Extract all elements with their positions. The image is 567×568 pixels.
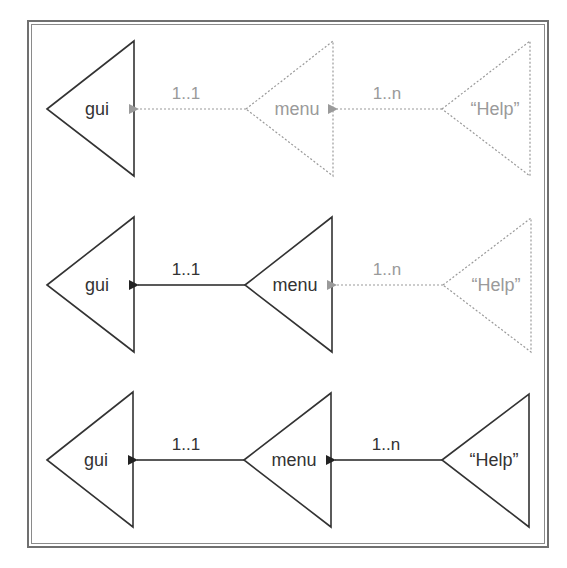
node-label-menu: menu <box>271 450 316 470</box>
edge-label-1-1: 1..1 <box>172 435 200 454</box>
node-label-help: “Help” <box>470 99 519 119</box>
edge-label-1-n: 1..n <box>373 84 401 103</box>
node-label-help: “Help” <box>471 275 520 295</box>
edge-label-1-n: 1..n <box>372 435 400 454</box>
row-1: gui 1..1 menu 1..n “Help” <box>47 41 530 176</box>
node-label-help: “Help” <box>469 450 518 470</box>
edge-label-1-1: 1..1 <box>172 84 200 103</box>
node-label-gui: gui <box>84 450 108 470</box>
node-label-gui: gui <box>85 99 109 119</box>
edge-label-1-n: 1..n <box>373 260 401 279</box>
row-3: gui 1..1 menu 1..n “Help” <box>47 392 529 527</box>
node-label-menu: menu <box>274 99 319 119</box>
node-label-menu: menu <box>272 275 317 295</box>
composition-diagram: gui 1..1 menu 1..n “Help” gui 1..1 menu … <box>0 0 567 568</box>
edge-label-1-1: 1..1 <box>172 260 200 279</box>
node-label-gui: gui <box>85 275 109 295</box>
row-2: gui 1..1 menu 1..n “Help” <box>47 217 531 352</box>
